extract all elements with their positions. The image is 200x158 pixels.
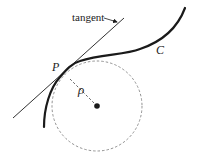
curve-c [44,8,185,127]
point-label: P [51,60,60,74]
tangent-label-arrow [104,18,117,22]
circle-center-point [94,103,100,109]
curvature-diagram: tangent C P ρ [0,0,200,158]
tangent-label: tangent [72,11,104,23]
curve-label: C [156,43,165,57]
radius-label: ρ [77,82,84,97]
